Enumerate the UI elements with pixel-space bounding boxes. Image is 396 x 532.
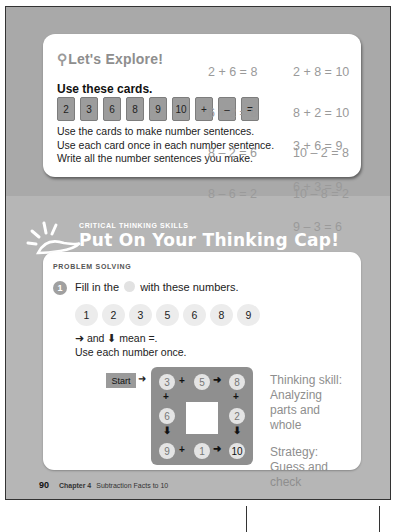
strategy-value: check bbox=[270, 475, 342, 490]
question-number-badge: 1 bbox=[53, 281, 67, 295]
grid-cell: 5 bbox=[194, 374, 210, 390]
chapter-label: Chapter 4 bbox=[59, 482, 91, 489]
skill-label: Thinking skill: bbox=[270, 373, 342, 388]
answer-equation: 2 + 6 = 8 bbox=[208, 66, 257, 80]
right-arrow-icon: ➜ bbox=[213, 374, 221, 385]
grid-cell: 10 bbox=[229, 443, 245, 459]
right-arrow-icon: ➜ bbox=[138, 373, 146, 384]
card: 10 bbox=[172, 97, 190, 121]
start-label: Start bbox=[106, 373, 136, 388]
grid-cell: 2 bbox=[229, 408, 245, 424]
answer-equation: 2 + 8 = 10 bbox=[293, 66, 349, 80]
answer-equation: 6 + 2 = 8 bbox=[208, 107, 257, 121]
page-footer: 90 Chapter 4 Subtraction Facts to 10 bbox=[39, 480, 168, 490]
edge-tab-box bbox=[246, 506, 380, 532]
down-arrow-icon: ⬇ bbox=[233, 425, 241, 436]
explore-title: ⚲Let's Explore! bbox=[57, 51, 163, 67]
rule-text: ➜ and ⬇ mean =. Use each number once. bbox=[75, 332, 186, 359]
skill-value: whole bbox=[270, 418, 342, 433]
explore-title-text: Let's Explore! bbox=[68, 51, 163, 67]
rule-line-once: Use each number once. bbox=[75, 346, 186, 360]
right-arrow-icon: ➜ bbox=[213, 443, 221, 454]
answer-column-1: 2 + 6 = 8 6 + 2 = 8 8 – 2 = 6 8 – 6 = 2 bbox=[208, 39, 257, 228]
card: 3 bbox=[80, 97, 98, 121]
problem-solving-kicker: PROBLEM SOLVING bbox=[53, 263, 131, 270]
spacer bbox=[270, 433, 342, 445]
down-arrow-icon: ⬇ bbox=[163, 425, 171, 436]
plus-icon: + bbox=[179, 375, 185, 386]
number-choice: 8 bbox=[210, 304, 233, 326]
card: 8 bbox=[126, 97, 144, 121]
puzzle-grid: 3 + 5 ➜ 8 + + 6 2 ⬇ ⬇ 9 + 1 ➜ 10 bbox=[151, 367, 253, 465]
plus-icon: + bbox=[233, 391, 239, 402]
strategy-label: Strategy: bbox=[270, 445, 342, 460]
number-choice: 6 bbox=[183, 304, 206, 326]
page-number: 90 bbox=[39, 480, 49, 490]
critical-thinking-kicker: CRITICAL THINKING SKILLS bbox=[79, 222, 189, 229]
textbook-page: ⚲Let's Explore! Use these cards. 2 3 6 8… bbox=[5, 6, 391, 500]
grid-cell: 9 bbox=[159, 443, 175, 459]
strategy-value: Guess and bbox=[270, 460, 342, 475]
skill-value: parts and bbox=[270, 403, 342, 418]
card: 9 bbox=[149, 97, 167, 121]
question-text-after: with these numbers. bbox=[140, 281, 238, 293]
plus-icon: + bbox=[163, 391, 169, 402]
number-choices: 1 2 3 5 6 8 9 bbox=[75, 304, 260, 326]
explore-subtitle: Use these cards. bbox=[57, 82, 152, 96]
number-choice: 9 bbox=[237, 304, 260, 326]
number-choice: 1 bbox=[75, 304, 98, 326]
grid-center-hole bbox=[186, 402, 218, 434]
side-notes: Thinking skill: Analyzing parts and whol… bbox=[270, 373, 342, 490]
question-text-before: Fill in the bbox=[75, 281, 119, 293]
number-choice: 5 bbox=[156, 304, 179, 326]
rule-line-arrows: ➜ and ⬇ mean =. bbox=[75, 332, 186, 346]
grid-cell: 8 bbox=[229, 374, 245, 390]
lets-explore-panel: ⚲Let's Explore! Use these cards. 2 3 6 8… bbox=[43, 34, 361, 177]
plus-icon: + bbox=[179, 444, 185, 455]
number-choice: 2 bbox=[102, 304, 125, 326]
card: 6 bbox=[103, 97, 121, 121]
skill-value: Analyzing bbox=[270, 388, 342, 403]
chapter-title: Subtraction Facts to 10 bbox=[96, 482, 168, 489]
card: 2 bbox=[57, 97, 75, 121]
number-choice: 3 bbox=[129, 304, 152, 326]
critical-thinking-title: Put On Your Thinking Cap! bbox=[79, 230, 339, 250]
question-text: Fill in the with these numbers. bbox=[75, 281, 239, 293]
magnifier-icon: ⚲ bbox=[57, 51, 67, 67]
grid-cell: 1 bbox=[194, 443, 210, 459]
answer-equation: 8 – 2 = 6 bbox=[208, 147, 257, 161]
answer-equation: 6 + 3 = 9 bbox=[293, 181, 342, 195]
blank-circle-icon bbox=[124, 281, 135, 292]
answer-equation: 3 + 6 = 9 bbox=[293, 140, 342, 154]
grid-cell: 3 bbox=[159, 374, 175, 390]
grid-cell: 6 bbox=[159, 408, 175, 424]
answer-equation: 8 – 6 = 2 bbox=[208, 188, 257, 202]
